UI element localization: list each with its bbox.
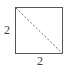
geometry-figure: 2 2 bbox=[0, 0, 83, 71]
bottom-side-length-label: 2 bbox=[34, 55, 46, 67]
left-side-length-label: 2 bbox=[1, 24, 13, 36]
diagonal-dashed-line bbox=[16, 8, 62, 53]
